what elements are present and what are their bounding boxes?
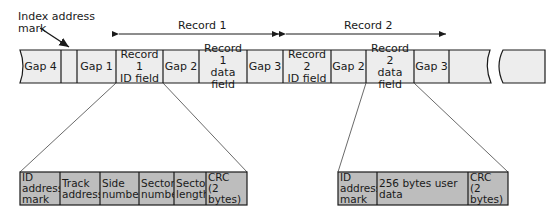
track-cell-blank1 <box>449 50 491 83</box>
track-cell-blank2 <box>500 50 545 83</box>
track-cell-r1gap2: Gap 2 <box>163 50 199 83</box>
id-field-detail-cell: ID address mark <box>20 172 60 205</box>
record2-label: Record 2 <box>344 20 393 32</box>
index-address-mark-label: Index address mark <box>18 11 95 35</box>
data-field-detail-cell: 256 bytes user data <box>377 172 468 205</box>
id-field-detail-cell: CRC (2 bytes) <box>206 172 247 205</box>
id-field-detail-cell: Side number <box>100 172 139 205</box>
id-field-detail-cell: Sector number <box>139 172 174 205</box>
track-cell-gap4: Gap 4 <box>20 50 61 83</box>
id-field-detail-cell: Track address <box>60 172 100 205</box>
id-field-detail-cell: Sector length <box>174 172 206 205</box>
track-cell-r2id: Record 2 ID field <box>283 50 331 83</box>
track-cell-r1gap3: Gap 3 <box>247 50 283 83</box>
track-cell-r1id: Record 1 ID field <box>116 50 163 83</box>
track-cell-r2gap2: Gap 2 <box>331 50 366 83</box>
track-cell-r2gap3: Gap 3 <box>414 50 449 83</box>
track-cell-gap1: Gap 1 <box>77 50 116 83</box>
track-cell-r2data: Record 2 data field <box>366 50 414 83</box>
track-cell-r1data: Record 1 data field <box>199 50 247 83</box>
data-field-detail-cell: CRC (2 bytes) <box>468 172 508 205</box>
record1-label: Record 1 <box>178 20 227 32</box>
track-cell-index <box>61 50 77 83</box>
data-field-detail-cell: ID address mark <box>338 172 377 205</box>
